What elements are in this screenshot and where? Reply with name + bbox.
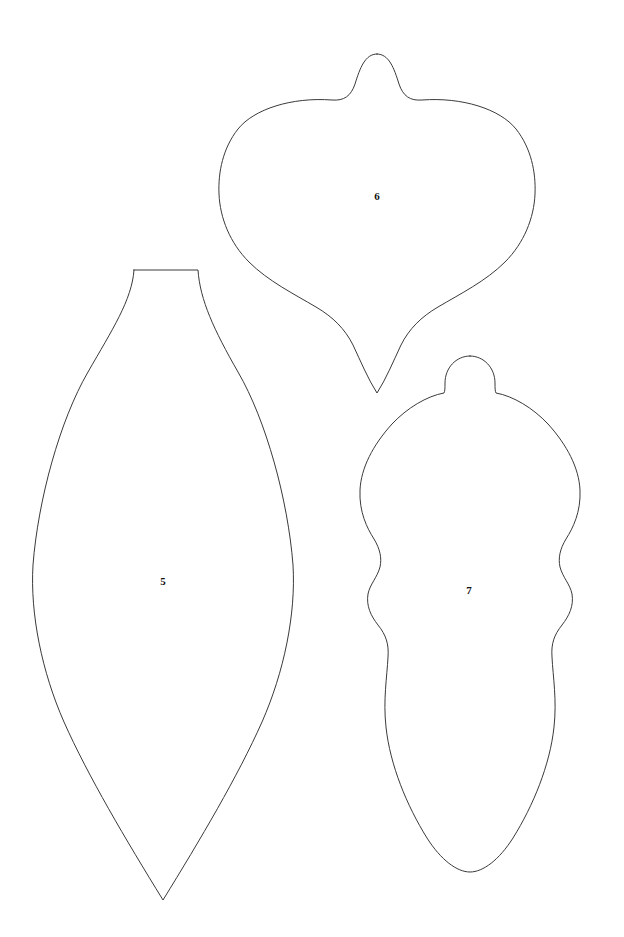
piece-label-6: 6 — [374, 190, 380, 202]
ornament-outline-6[interactable] — [219, 54, 535, 393]
ornament-piece-7[interactable]: 7 — [360, 356, 580, 872]
piece-label-5: 5 — [160, 575, 166, 587]
ornament-outline-7[interactable] — [360, 356, 580, 872]
piece-label-7: 7 — [466, 584, 472, 596]
ornament-piece-5[interactable]: 5 — [33, 270, 294, 900]
ornament-template-sheet: 5 6 7 — [0, 0, 624, 937]
ornament-piece-6[interactable]: 6 — [219, 54, 535, 393]
ornament-shapes-canvas: 5 6 7 — [0, 0, 624, 937]
